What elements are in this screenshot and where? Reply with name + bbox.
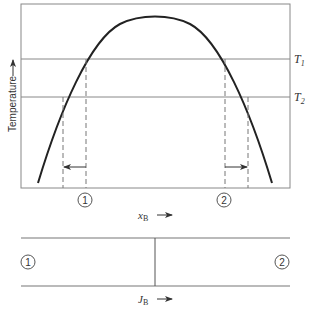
diagram-canvas: T1 T2 Temperature 1 2 xB 1 2 JB [0, 0, 310, 311]
marker-2-lower: 2 [275, 255, 289, 269]
svg-text:xB: xB [137, 209, 148, 223]
miscibility-curve [38, 17, 272, 184]
svg-text:JB: JB [138, 293, 148, 307]
svg-text:Temperature: Temperature [7, 75, 18, 132]
svg-text:2: 2 [279, 257, 285, 268]
y-axis-label: Temperature [7, 60, 18, 132]
svg-text:2: 2 [221, 195, 227, 206]
marker-1-lower: 1 [21, 255, 35, 269]
x-axis-label: xB [137, 209, 172, 223]
svg-text:1: 1 [82, 195, 88, 206]
svg-text:1: 1 [25, 257, 31, 268]
isotherm-t2-label: T2 [294, 90, 305, 106]
plot-frame [21, 4, 290, 188]
marker-2-upper: 2 [217, 193, 231, 207]
flux-axis-label: JB [138, 293, 172, 307]
marker-1-upper: 1 [78, 193, 92, 207]
isotherm-t1-label: T1 [294, 52, 305, 68]
